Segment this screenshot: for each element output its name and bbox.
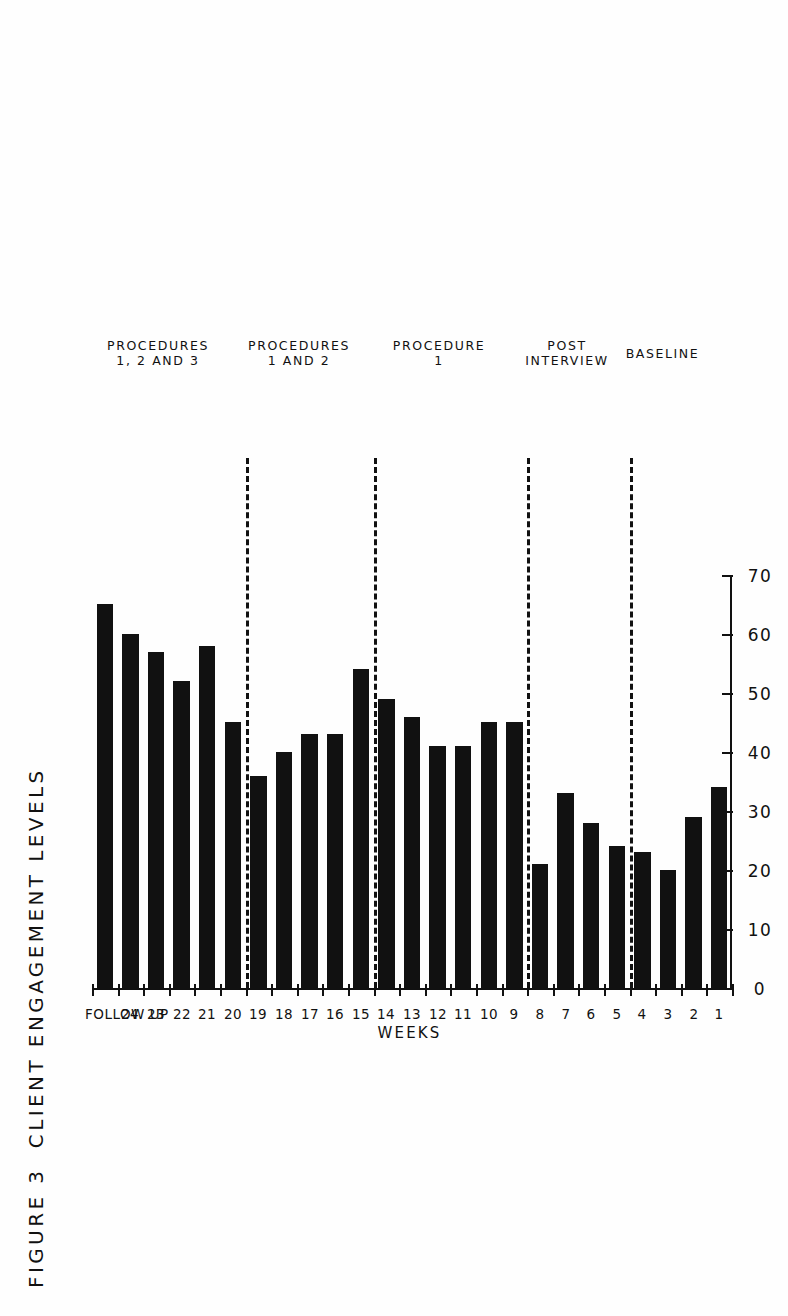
bar: [353, 669, 369, 988]
bar: [429, 746, 445, 988]
category-tick: [92, 984, 94, 996]
category-axis-title: WEEKS: [377, 1026, 441, 1041]
category-tick: [322, 984, 324, 996]
bar: [532, 864, 548, 988]
value-tick: [722, 634, 733, 636]
category-tick: [732, 984, 734, 996]
value-tick-label: 50: [745, 684, 775, 704]
bar: [609, 846, 625, 988]
value-tick-label: 20: [745, 861, 775, 881]
plot-area: 010203040506070 123456789101112131415161…: [92, 290, 732, 990]
category-tick: [297, 984, 299, 996]
category-tick: [194, 984, 196, 996]
value-tick-label: 70: [745, 566, 775, 586]
category-tick: [399, 984, 401, 996]
value-tick: [722, 575, 733, 577]
bar: [634, 852, 650, 988]
bar: [481, 723, 497, 989]
value-tick: [722, 752, 733, 754]
category-tick: [220, 984, 222, 996]
value-tick-label: 40: [745, 743, 775, 763]
category-tick: [476, 984, 478, 996]
category-tick: [604, 984, 606, 996]
value-tick-label: 10: [745, 920, 775, 940]
bar: [378, 699, 394, 988]
bar: [583, 823, 599, 988]
bar: [276, 752, 292, 988]
figure-canvas: FIGURE 3 CLIENT ENGAGEMENT LEVELS 010203…: [0, 0, 788, 1316]
bar: [199, 646, 215, 988]
bar: [711, 787, 727, 988]
category-tick: [655, 984, 657, 996]
figure-title: FIGURE 3 CLIENT ENGAGEMENT LEVELS: [26, 767, 46, 1288]
value-tick-label: 60: [745, 625, 775, 645]
bar: [97, 605, 113, 989]
bar: [404, 717, 420, 988]
category-tick: [578, 984, 580, 996]
bar: [327, 734, 343, 988]
category-tick: [553, 984, 555, 996]
bar: [506, 723, 522, 989]
category-tick: [681, 984, 683, 996]
value-tick: [722, 693, 733, 695]
bar: [122, 634, 138, 988]
category-tick-label: FOLLOW UP: [85, 1006, 125, 1022]
bar: [148, 652, 164, 988]
category-tick: [271, 984, 273, 996]
phase-separator: [246, 458, 249, 988]
category-tick: [706, 984, 708, 996]
category-tick: [502, 984, 504, 996]
bar: [250, 776, 266, 988]
bar: [557, 793, 573, 988]
phase-separator: [630, 458, 633, 988]
phase-label: PROCEDURES 1, 2 AND 3: [73, 338, 243, 368]
bar: [660, 870, 676, 988]
category-tick: [450, 984, 452, 996]
category-tick: [118, 984, 120, 996]
category-tick: [169, 984, 171, 996]
bar: [301, 734, 317, 988]
bar: [685, 817, 701, 988]
bar: [455, 746, 471, 988]
value-tick-label: 30: [745, 802, 775, 822]
category-tick: [425, 984, 427, 996]
category-tick: [348, 984, 350, 996]
value-tick-label: 0: [745, 979, 775, 999]
bar: [225, 723, 241, 989]
bar: [173, 681, 189, 988]
category-tick: [143, 984, 145, 996]
category-axis-line: [92, 988, 732, 990]
phase-separator: [527, 458, 530, 988]
phase-separator: [374, 458, 377, 988]
